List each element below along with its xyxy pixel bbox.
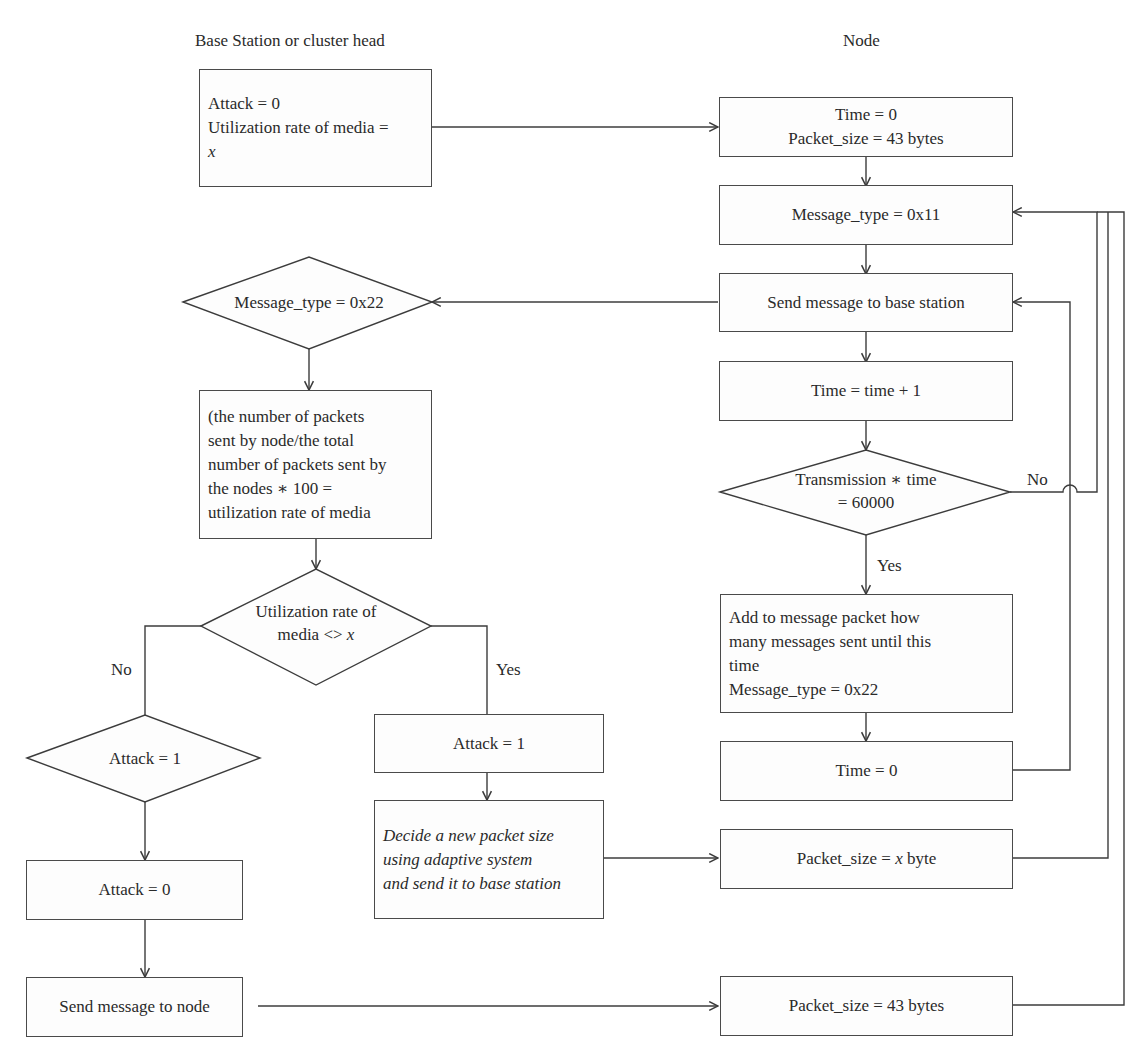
attack-reset-label: Attack = 0 xyxy=(99,878,171,902)
decision-util-yes-label: Yes xyxy=(496,660,521,680)
adaptive-line3: and send it to base station xyxy=(383,872,561,896)
compute-line1: (the number of packets xyxy=(208,405,364,429)
decision-util-line2-var: x xyxy=(347,625,355,644)
add-box-line4: Message_type = 0x22 xyxy=(729,678,878,702)
base-init-util: Utilization rate of media = xyxy=(208,116,388,140)
node-init-box: Time = 0 Packet_size = 43 bytes xyxy=(719,97,1013,157)
time-reset-box: Time = 0 xyxy=(720,741,1013,801)
decision-tx-no-label: No xyxy=(1027,470,1048,490)
send-to-base-station-box: Send message to base station xyxy=(719,273,1013,332)
decision-tx-yes-label: Yes xyxy=(877,556,902,576)
utilization-compute-box: (the number of packets sent by node/the … xyxy=(199,390,432,539)
packet-size-x-suffix: byte xyxy=(903,849,937,868)
time-increment-label: Time = time + 1 xyxy=(811,379,921,403)
decision-util-text: Utilization rate of media <> x xyxy=(226,600,406,646)
compute-line2: sent by node/the total xyxy=(208,429,354,453)
attack-set-one-label: Attack = 1 xyxy=(453,732,525,756)
node-init-time: Time = 0 xyxy=(835,103,897,127)
adaptive-line1: Decide a new packet size xyxy=(383,824,554,848)
decision-tx-line2: = 60000 xyxy=(760,491,972,514)
add-box-line1: Add to message packet how xyxy=(729,606,920,630)
base-station-column-header: Base Station or cluster head xyxy=(195,31,385,51)
decision-util-no-label: No xyxy=(111,660,132,680)
decision-util-line2-prefix: media <> xyxy=(278,625,347,644)
decision-tx-line1: Transmission ∗ time xyxy=(760,468,972,491)
msg-type-11-box: Message_type = 0x11 xyxy=(719,185,1013,245)
send-to-node-label: Send message to node xyxy=(59,995,210,1019)
packet-size-x-box: Packet_size = x byte xyxy=(720,829,1013,889)
node-init-packet: Packet_size = 43 bytes xyxy=(788,127,943,151)
send-to-node-box: Send message to node xyxy=(26,977,243,1037)
add-box-line3: time xyxy=(729,654,759,678)
base-init-attack: Attack = 0 xyxy=(208,92,280,116)
decision-attack-text: Attack = 1 xyxy=(85,747,205,770)
compute-line3: number of packets sent by xyxy=(208,453,386,477)
add-message-count-box: Add to message packet how many messages … xyxy=(720,594,1013,713)
adaptive-line2: using adaptive system xyxy=(383,848,532,872)
compute-line4: the nodes ∗ 100 = xyxy=(208,477,332,501)
attack-reset-box: Attack = 0 xyxy=(26,860,243,920)
time-increment-box: Time = time + 1 xyxy=(719,361,1013,421)
packet-size-43-label: Packet_size = 43 bytes xyxy=(789,994,944,1018)
base-init-box: Attack = 0 Utilization rate of media = x xyxy=(199,69,432,187)
add-box-line2: many messages sent until this xyxy=(729,630,931,654)
msg-type-11-label: Message_type = 0x11 xyxy=(792,203,941,227)
adaptive-packet-size-box: Decide a new packet size using adaptive … xyxy=(374,800,604,919)
packet-size-x-prefix: Packet_size = xyxy=(797,849,895,868)
decision-tx-text: Transmission ∗ time = 60000 xyxy=(760,468,972,514)
compute-line5: utilization rate of media xyxy=(208,501,371,525)
packet-size-x-var: x xyxy=(895,849,903,868)
decision-util-line1: Utilization rate of xyxy=(226,600,406,623)
base-init-var: x xyxy=(208,140,216,164)
packet-size-43-box: Packet_size = 43 bytes xyxy=(720,976,1013,1036)
node-column-header: Node xyxy=(843,31,880,51)
attack-set-one-box: Attack = 1 xyxy=(374,714,604,773)
packet-size-x-label: Packet_size = x byte xyxy=(797,847,936,871)
decision-util-line2: media <> x xyxy=(226,623,406,646)
decision-msg-type-text: Message_type = 0x22 xyxy=(214,291,404,314)
time-reset-label: Time = 0 xyxy=(836,759,898,783)
send-to-base-station-label: Send message to base station xyxy=(767,291,964,315)
